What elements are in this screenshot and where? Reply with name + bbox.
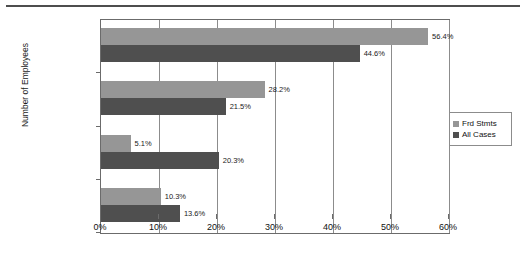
x-tick <box>100 214 101 219</box>
legend-item[interactable]: Frd Stmts <box>453 119 508 128</box>
y-tick <box>96 179 100 180</box>
x-tick-label: 30% <box>254 222 294 232</box>
x-tick <box>448 214 449 219</box>
bar-value-label: 44.6% <box>360 45 385 62</box>
chart-page: Number of Employees 56.4%44.6%28.2%21.5%… <box>0 0 526 266</box>
x-tick <box>158 214 159 219</box>
bar-value-label: 21.5% <box>226 98 251 115</box>
legend-label: Frd Stmts <box>462 119 497 128</box>
bar-group: 56.4%44.6% <box>101 20 449 73</box>
chart-legend: Frd StmtsAll Cases <box>449 112 512 146</box>
legend-swatch-icon <box>453 132 459 138</box>
y-axis-title: Number of Employees <box>20 25 30 145</box>
header-divider <box>6 5 520 7</box>
x-tick-label: 50% <box>370 222 410 232</box>
bar-value-label: 5.1% <box>131 135 152 152</box>
bar: 10.3% <box>101 188 161 205</box>
bar-group: 28.2%21.5% <box>101 73 449 126</box>
x-tick-label: 40% <box>312 222 352 232</box>
bar-value-label: 56.4% <box>428 28 453 45</box>
bar: 56.4% <box>101 28 428 45</box>
bar-value-label: 10.3% <box>161 188 186 205</box>
legend-item[interactable]: All Cases <box>453 130 508 139</box>
x-tick-label: 60% <box>428 222 468 232</box>
x-tick-label: 10% <box>138 222 178 232</box>
bar: 44.6% <box>101 45 360 62</box>
x-tick <box>216 214 217 219</box>
y-tick <box>96 72 100 73</box>
x-tick <box>390 214 391 219</box>
y-tick <box>96 232 100 233</box>
bar-group: 5.1%20.3% <box>101 127 449 180</box>
bar: 13.6% <box>101 205 180 222</box>
bar-value-label: 13.6% <box>180 205 205 222</box>
x-tick-label: 20% <box>196 222 236 232</box>
x-tick <box>274 214 275 219</box>
legend-label: All Cases <box>462 130 496 139</box>
y-tick <box>96 126 100 127</box>
x-tick <box>332 214 333 219</box>
plot-area: 56.4%44.6%28.2%21.5%5.1%20.3%10.3%13.6% <box>100 19 450 234</box>
bar-value-label: 20.3% <box>219 152 244 169</box>
legend-swatch-icon <box>453 121 459 127</box>
bar: 20.3% <box>101 152 219 169</box>
bar: 28.2% <box>101 81 265 98</box>
bar: 21.5% <box>101 98 226 115</box>
bar-value-label: 28.2% <box>265 81 290 98</box>
x-tick-label: 0% <box>80 222 120 232</box>
bar: 5.1% <box>101 135 131 152</box>
